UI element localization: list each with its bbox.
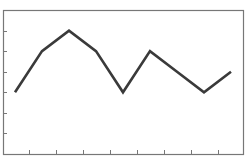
series-line [15, 31, 231, 93]
x-axis-ticks [30, 150, 219, 154]
plot-frame [4, 11, 244, 155]
plot-border [4, 11, 244, 155]
chart-canvas [0, 0, 250, 164]
data-series [15, 31, 231, 93]
line-chart [0, 0, 250, 164]
